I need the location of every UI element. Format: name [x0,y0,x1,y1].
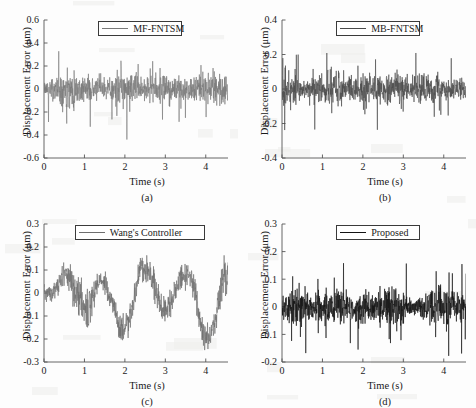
x-tick-label: 4 [203,365,208,376]
x-tick-label: 1 [320,161,325,172]
legend-b: MB-FNTSM [336,21,420,36]
subcaption-c: (c) [28,396,266,407]
subcaption-a: (a) [28,192,266,203]
y-axis-label-d: Displacement Error (μm) [259,211,270,359]
y-axis-label-c: Displacement Error (μm) [21,211,32,359]
legend-line-b [340,28,366,29]
x-tick-label: 3 [401,365,406,376]
x-tick-label: 0 [280,161,285,172]
x-tick-label: 0 [42,161,47,172]
data-trace-b [282,53,466,130]
y-tick-label: 0 [34,287,39,298]
x-tick-label: 2 [122,161,127,172]
x-tick-label: 3 [163,161,168,172]
legend-line-c [79,232,105,233]
x-tick-label: 0 [280,365,285,376]
legend-label-b: MB-FNTSM [371,24,423,34]
x-tick-label: 1 [82,161,87,172]
legend-line-d [340,232,366,233]
x-axis-label-a: Time (s) [28,176,266,187]
legend-line-a [102,28,128,29]
x-tick-label: 2 [360,161,365,172]
subplot-c: 0.30.20.10-0.1-0.2-0.301234 Displacement… [0,204,238,408]
legend-d: Proposed [336,225,420,240]
y-axis-label-b: Displacement Error (μm) [259,7,270,155]
x-tick-label: 4 [203,161,208,172]
legend-c: Wang's Controller [75,225,205,240]
legend-a: MF-FNTSM [98,21,182,36]
figure-canvas: 0.60.40.20-0.2-0.4-0.601234 Displacement… [0,0,476,408]
legend-label-a: MF-FNTSM [133,24,184,34]
x-tick-label: 1 [320,365,325,376]
x-tick-label: 2 [360,365,365,376]
x-tick-label: 2 [122,365,127,376]
subplot-a: 0.60.40.20-0.2-0.4-0.601234 Displacement… [0,0,238,204]
x-tick-label: 3 [401,161,406,172]
subcaption-d: (d) [266,396,476,407]
y-tick-label: 0 [272,301,277,312]
x-tick-label: 4 [441,161,446,172]
y-axis-label-a: Displacement Error (μm) [21,7,32,155]
legend-label-d: Proposed [371,228,408,238]
subcaption-b: (b) [266,192,476,203]
y-tick-label: 0 [272,83,277,94]
legend-label-c: Wang's Controller [110,228,182,238]
x-tick-label: 3 [163,365,168,376]
x-tick-label: 4 [441,365,446,376]
data-trace-d [282,263,466,356]
x-axis-label-d: Time (s) [266,380,476,391]
x-tick-label: 1 [82,365,87,376]
subplot-d: 0.30.20.10-0.1-0.201234 Displacement Err… [238,204,476,408]
x-tick-label: 0 [42,365,47,376]
y-tick-label: 0 [34,83,39,94]
subplot-b: 0.40.20-0.2-0.401234 Displacement Error … [238,0,476,204]
x-axis-label-c: Time (s) [28,380,266,391]
x-axis-label-b: Time (s) [266,176,476,187]
data-trace-a [44,51,228,139]
